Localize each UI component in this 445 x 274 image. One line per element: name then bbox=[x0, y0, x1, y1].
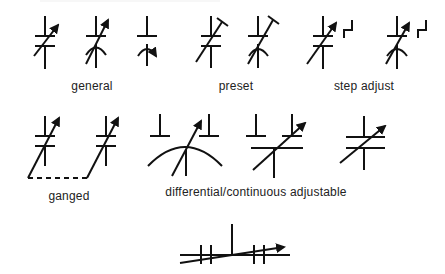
step-adjust-capacitor-symbol bbox=[307, 16, 352, 69]
ganged-capacitor-symbol bbox=[28, 116, 118, 178]
general-variable-capacitor-symbol bbox=[34, 16, 58, 69]
label-preset: preset bbox=[219, 79, 254, 93]
step-adjust-curved-plate-capacitor-symbol bbox=[386, 16, 426, 69]
general-rotor-capacitor-symbol bbox=[137, 16, 157, 66]
label-differential: differential/continuous adjustable bbox=[165, 185, 346, 199]
label-general: general bbox=[71, 79, 112, 93]
differential-parallel-capacitor-symbol bbox=[246, 114, 305, 178]
differential-capacitor-symbol bbox=[148, 114, 222, 176]
preset-capacitor-symbol bbox=[196, 16, 228, 68]
label-ganged: ganged bbox=[48, 189, 89, 203]
capacitor-symbol-diagram bbox=[0, 0, 445, 274]
label-step-adjust: step adjust bbox=[334, 79, 394, 93]
split-stator-capacitor-symbol bbox=[180, 224, 290, 264]
general-curved-plate-capacitor-symbol bbox=[86, 16, 108, 68]
continuous-adjustable-capacitor-symbol bbox=[340, 116, 385, 170]
preset-curved-plate-capacitor-symbol bbox=[248, 16, 279, 68]
